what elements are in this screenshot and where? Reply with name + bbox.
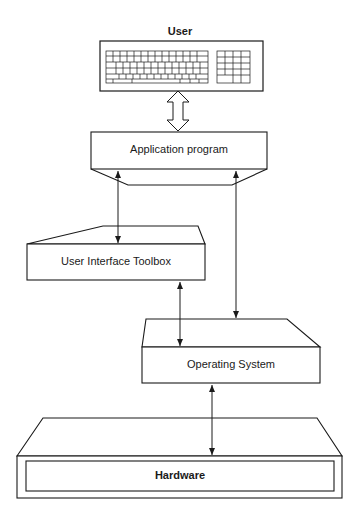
toolbox-box — [27, 226, 205, 280]
hardware-box — [17, 418, 342, 498]
application-program-label: Application program — [91, 143, 267, 155]
operating-system-box — [142, 319, 320, 383]
keyboard-icon — [100, 41, 263, 91]
user-app-hollow-arrow — [167, 91, 189, 131]
operating-system-label: Operating System — [142, 358, 320, 370]
application-program-box — [91, 132, 267, 185]
hardware-label: Hardware — [26, 469, 334, 481]
toolbox-label: User Interface Toolbox — [27, 255, 205, 267]
user-label: User — [150, 25, 210, 37]
